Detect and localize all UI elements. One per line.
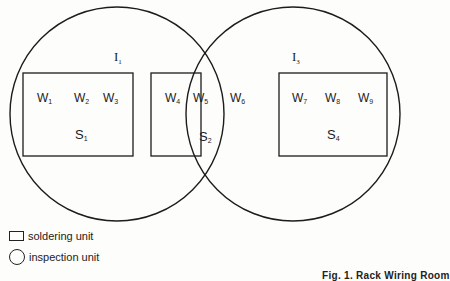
worker-w6: W6 <box>230 92 245 105</box>
worker-w6-text: W <box>230 91 241 105</box>
worker-w4: W4 <box>165 92 180 105</box>
soldering-label-s1: S1 <box>75 128 88 142</box>
legend-inspection-label: inspection unit <box>29 251 99 263</box>
worker-w5-sub: 5 <box>204 98 208 105</box>
soldering-label-s4-text: S <box>327 127 336 142</box>
worker-w9-sub: 9 <box>369 98 373 105</box>
inspection-label-i3: I3 <box>292 50 300 66</box>
worker-w5: W5 <box>193 92 208 105</box>
inspection-unit-circle-i3 <box>186 7 400 221</box>
worker-w7-text: W <box>292 91 303 105</box>
circle-icon <box>9 249 25 265</box>
worker-w1-text: W <box>37 91 48 105</box>
inspection-label-i1-sub: 1 <box>118 58 122 66</box>
soldering-label-s4: S4 <box>327 128 340 142</box>
worker-w3: W3 <box>103 92 118 105</box>
worker-w9: W9 <box>358 92 373 105</box>
worker-w9-text: W <box>358 91 369 105</box>
soldering-unit-box-s4 <box>279 73 387 156</box>
soldering-label-s2-sub: 2 <box>208 137 212 144</box>
worker-w4-sub: 4 <box>176 98 180 105</box>
worker-w2-sub: 2 <box>85 98 89 105</box>
worker-w8-sub: 8 <box>336 98 340 105</box>
worker-w3-sub: 3 <box>114 98 118 105</box>
worker-w2-text: W <box>74 91 85 105</box>
worker-w8: W8 <box>325 92 340 105</box>
figure-caption: Fig. 1. Rack Wiring Room <box>322 270 450 281</box>
soldering-unit-box-s2 <box>151 73 201 156</box>
square-icon <box>9 231 24 241</box>
legend-inspection-unit: inspection unit <box>9 249 99 265</box>
inspection-label-i3-sub: 3 <box>296 58 300 66</box>
worker-w3-text: W <box>103 91 114 105</box>
worker-w1-sub: 1 <box>48 98 52 105</box>
soldering-label-s1-sub: 1 <box>84 135 88 142</box>
inspection-label-i1: I1 <box>114 50 122 66</box>
soldering-label-s2-text: S <box>199 129 208 144</box>
worker-w5-text: W <box>193 91 204 105</box>
legend-soldering-label: soldering unit <box>28 230 93 242</box>
inspection-unit-circle-i1 <box>10 7 224 221</box>
worker-w7-sub: 7 <box>303 98 307 105</box>
legend-soldering-unit: soldering unit <box>9 230 93 242</box>
soldering-label-s2: S2 <box>199 130 212 144</box>
soldering-label-s1-text: S <box>75 127 84 142</box>
worker-w4-text: W <box>165 91 176 105</box>
soldering-label-s4-sub: 4 <box>336 135 340 142</box>
soldering-unit-box-s1 <box>23 73 133 156</box>
worker-w2: W2 <box>74 92 89 105</box>
worker-w6-sub: 6 <box>241 98 245 105</box>
worker-w8-text: W <box>325 91 336 105</box>
worker-w7: W7 <box>292 92 307 105</box>
worker-w1: W1 <box>37 92 52 105</box>
